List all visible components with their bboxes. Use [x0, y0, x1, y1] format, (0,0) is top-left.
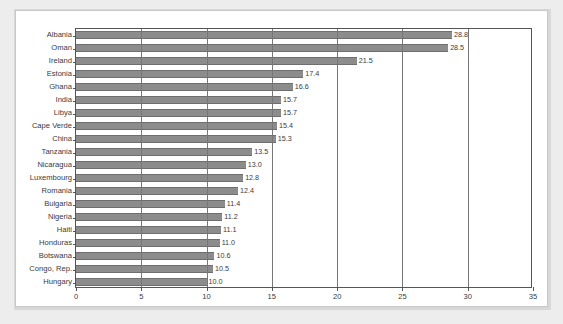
bar-value-label: 15.3: [278, 133, 292, 145]
category-label: Haiti: [57, 224, 72, 237]
bar-value-label: 15.7: [283, 94, 297, 106]
chart-panel: Albania28.8Oman28.5Ireland21.5Estonia17.…: [15, 10, 548, 307]
bar-value-label: 21.5: [359, 55, 373, 67]
bar: [76, 44, 448, 52]
category-label: Botswana: [39, 250, 72, 263]
bar-row: Estonia17.4: [76, 68, 531, 81]
bar: [76, 31, 452, 39]
bar-value-label: 11.4: [227, 198, 240, 210]
category-label: India: [56, 94, 72, 107]
bar: [76, 187, 238, 195]
bar-value-label: 11.2: [224, 211, 237, 223]
x-axis-tick-label: 5: [139, 292, 143, 301]
category-label: Honduras: [39, 237, 72, 250]
category-label: Ghana: [49, 81, 72, 94]
bar-row: Libya15.7: [76, 107, 531, 120]
category-label: Romania: [42, 185, 72, 198]
bar-row: Botswana10.6: [76, 250, 531, 263]
screenshot-root: Albania28.8Oman28.5Ireland21.5Estonia17.…: [0, 0, 563, 324]
gridline: [402, 29, 403, 287]
bar-row: Nicaragua13.0: [76, 159, 531, 172]
bar-value-label: 10.5: [215, 263, 229, 275]
bar-row: Honduras11.0: [76, 237, 531, 250]
x-axis-tick: [76, 287, 77, 291]
category-label: Nigeria: [48, 211, 72, 224]
x-axis-tick-label: 15: [268, 292, 276, 301]
bar: [76, 135, 276, 143]
x-axis-tick: [468, 287, 469, 291]
bar-row: Albania28.8: [76, 29, 531, 42]
bar-value-label: 15.7: [283, 107, 297, 119]
bar-row: Romania12.4: [76, 185, 531, 198]
plot-area: Albania28.8Oman28.5Ireland21.5Estonia17.…: [75, 28, 532, 288]
bar-row: Haiti11.1: [76, 224, 531, 237]
gridline: [272, 29, 273, 287]
bar-row: Ghana16.6: [76, 81, 531, 94]
x-axis-tick: [337, 287, 338, 291]
x-axis-tick-label: 30: [463, 292, 471, 301]
bar: [76, 161, 246, 169]
x-axis-tick: [272, 287, 273, 291]
gridline: [468, 29, 469, 287]
bar: [76, 83, 293, 91]
gridline: [337, 29, 338, 287]
bar-row: Bulgaria11.4: [76, 198, 531, 211]
category-label: Ireland: [49, 55, 72, 68]
bar: [76, 96, 281, 104]
x-axis-tick-label: 10: [202, 292, 210, 301]
x-axis-tick-label: 35: [529, 292, 537, 301]
bar-value-label: 10.0: [209, 276, 223, 288]
gridline: [207, 29, 208, 287]
category-label: Luxembourg: [30, 172, 72, 185]
bar-chart: Albania28.8Oman28.5Ireland21.5Estonia17.…: [16, 11, 549, 308]
bar-value-label: 10.6: [216, 250, 230, 262]
bar-value-label: 15.4: [279, 120, 293, 132]
bar-value-label: 11.0: [222, 237, 235, 249]
bar: [76, 57, 357, 65]
bar: [76, 239, 220, 247]
bar-value-label: 13.5: [254, 146, 268, 158]
bar-value-label: 12.8: [245, 172, 259, 184]
category-label: Congo, Rep.: [29, 263, 72, 276]
bar: [76, 252, 214, 260]
category-label: Libya: [54, 107, 72, 120]
category-label: Nicaragua: [37, 159, 72, 172]
bar-value-label: 13.0: [248, 159, 262, 171]
bar: [76, 265, 213, 273]
bar: [76, 109, 281, 117]
bar: [76, 213, 222, 221]
category-label: Oman: [51, 42, 72, 55]
bar-row: China15.3: [76, 133, 531, 146]
x-axis-tick: [533, 287, 534, 291]
bar-value-label: 17.4: [305, 68, 319, 80]
bar-value-label: 28.5: [450, 42, 464, 54]
bar-value-label: 28.8: [454, 29, 468, 41]
x-axis-tick-label: 0: [74, 292, 78, 301]
x-axis-tick-label: 20: [333, 292, 341, 301]
x-axis-tick: [402, 287, 403, 291]
bar-row: Cape Verde15.4: [76, 120, 531, 133]
category-label: Hungary: [43, 276, 72, 289]
x-axis-tick: [141, 287, 142, 291]
category-label: Albania: [47, 29, 72, 42]
bar: [76, 200, 225, 208]
bar: [76, 226, 221, 234]
bar-row: Luxembourg12.8: [76, 172, 531, 185]
gridline: [141, 29, 142, 287]
category-label: China: [52, 133, 72, 146]
category-label: Bulgaria: [44, 198, 72, 211]
bar: [76, 174, 243, 182]
bar: [76, 70, 303, 78]
bar: [76, 122, 277, 130]
bar-value-label: 11.1: [223, 224, 236, 236]
bar-row: Tanzania13.5: [76, 146, 531, 159]
bar-row: Ireland21.5: [76, 55, 531, 68]
x-axis-tick-label: 25: [398, 292, 406, 301]
category-label: Cape Verde: [32, 120, 72, 133]
x-axis-tick: [207, 287, 208, 291]
category-label: Tanzania: [42, 146, 72, 159]
bar-row: Oman28.5: [76, 42, 531, 55]
bar: [76, 148, 252, 156]
bar-value-label: 16.6: [295, 81, 309, 93]
bar-row: India15.7: [76, 94, 531, 107]
